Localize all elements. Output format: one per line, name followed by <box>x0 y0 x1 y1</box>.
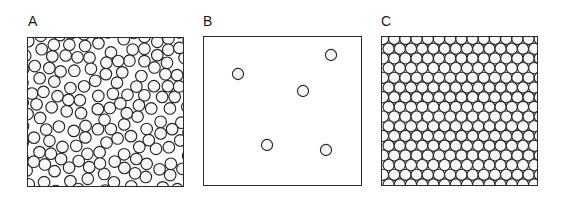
panel-c-label: C <box>381 14 391 28</box>
panel-a-box <box>27 37 184 187</box>
panel-c-box <box>381 36 538 186</box>
panel-a-label: A <box>28 14 38 28</box>
panel-c-packing <box>382 37 538 186</box>
three-panel-packing-figure: A B C <box>0 0 565 201</box>
panel-b-packing <box>204 37 362 186</box>
panel-b-label: B <box>203 14 213 28</box>
panel-a-packing <box>28 38 184 187</box>
panel-b-box <box>203 36 362 186</box>
